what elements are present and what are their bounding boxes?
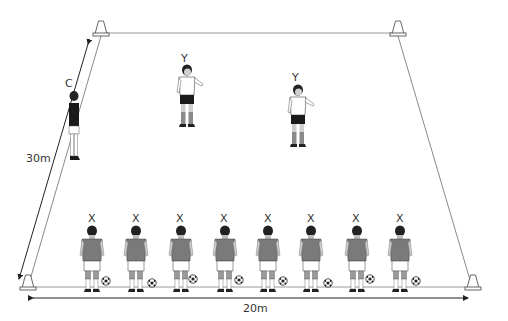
coach-label: C (65, 77, 73, 90)
ball-icon (189, 275, 197, 283)
drill-diagram: 30m 20m C Y Y X X X X (0, 0, 508, 321)
attacker-figure-icon (388, 226, 412, 293)
defender-player-2: Y (288, 71, 314, 147)
ball-icon (148, 279, 156, 287)
ball-icon (412, 277, 420, 285)
defender-figure-icon (288, 85, 314, 148)
cone-icon-top-right (390, 21, 406, 36)
defender-label: Y (291, 71, 299, 84)
attacker-player-7: X (345, 212, 374, 292)
defender-label: Y (180, 52, 188, 65)
attacker-figure-icon (169, 226, 193, 293)
attacker-figure-icon (299, 226, 323, 293)
attacker-label: X (132, 212, 140, 225)
attacker-figure-icon (256, 226, 280, 293)
attacker-player-5: X (256, 212, 287, 292)
attacker-label: X (396, 212, 404, 225)
cone-icon-bottom-right (465, 275, 481, 290)
attacker-label: X (352, 212, 360, 225)
attacker-figure-icon (345, 226, 369, 293)
cone-icon-top-left (93, 21, 109, 36)
width-dimension-label: 20m (243, 302, 268, 315)
attacker-label: X (307, 212, 315, 225)
attacker-player-2: X (124, 212, 156, 292)
cone-icon-bottom-left (20, 275, 36, 290)
attacker-figure-icon (80, 226, 104, 293)
ball-icon (102, 277, 110, 285)
defender-figure-icon (177, 65, 203, 128)
attacker-player-8: X (388, 212, 420, 292)
coach-player: C (65, 77, 80, 160)
ball-icon (324, 279, 332, 287)
defender-player-1: Y (177, 52, 203, 127)
attacker-player-1: X (80, 212, 110, 292)
ball-icon (235, 276, 243, 284)
ball-icon (366, 275, 374, 283)
attacker-label: X (88, 212, 96, 225)
attacker-label: X (176, 212, 184, 225)
attacker-player-6: X (299, 212, 332, 292)
length-dimension-label: 30m (26, 152, 51, 165)
attacker-figure-icon (213, 226, 237, 293)
attacker-label: X (264, 212, 272, 225)
ball-icon (279, 277, 287, 285)
attacker-row: X X X X X X X (80, 212, 420, 292)
attacker-label: X (220, 212, 228, 225)
attacker-figure-icon (124, 226, 148, 293)
attacker-player-4: X (213, 212, 243, 292)
attacker-player-3: X (169, 212, 197, 292)
